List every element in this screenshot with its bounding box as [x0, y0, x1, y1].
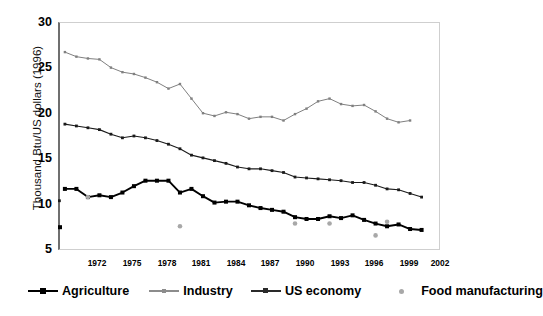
x-tick-label: 1981 [192, 258, 211, 268]
legend-key-food-manufacturing [387, 285, 417, 297]
x-tick-label: 1972 [88, 258, 107, 268]
legend-key-agriculture [28, 285, 58, 297]
legend-item-agriculture[interactable]: Agriculture [28, 284, 129, 298]
legend-item-us-economy[interactable]: US economy [251, 284, 361, 298]
x-tick-label: 1990 [296, 258, 315, 268]
legend-label-agriculture: Agriculture [62, 284, 129, 298]
x-tick-label: 1975 [123, 258, 142, 268]
x-tick-label: 1996 [365, 258, 384, 268]
x-tick-label: 1984 [227, 258, 246, 268]
legend-key-industry [149, 285, 179, 297]
legend-key-us-economy [251, 285, 281, 297]
x-tick-label: 2002 [431, 258, 450, 268]
x-tick-label: 1978 [158, 258, 177, 268]
chart-legend: Agriculture Industry US economy Food man… [10, 278, 455, 304]
legend-label-us-economy: US economy [285, 284, 361, 298]
x-tick-label: 1987 [261, 258, 280, 268]
legend-label-food-manufacturing: Food manufacturing [421, 284, 543, 298]
legend-item-industry[interactable]: Industry [149, 284, 233, 298]
legend-label-industry: Industry [183, 284, 233, 298]
x-tick-label: 1993 [331, 258, 350, 268]
x-tick-label: 1999 [400, 258, 419, 268]
legend-item-food-manufacturing[interactable]: Food manufacturing [387, 284, 543, 298]
